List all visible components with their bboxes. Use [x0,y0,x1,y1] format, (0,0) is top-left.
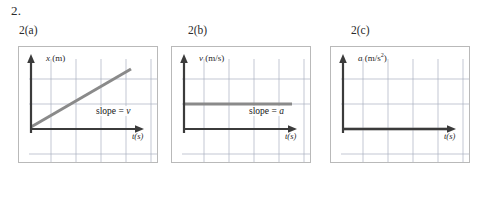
y-axis-arrowhead [339,54,347,63]
slope-prefix-2b: slope = [249,106,279,116]
vertical-gridlines [363,59,463,162]
horizontal-gridlines [182,79,310,154]
graph-svg-2c [331,47,470,163]
slope-symbol-2a: v [126,106,130,116]
y-axis-unit-tail-2c: ) [384,53,387,63]
y-axis-arrowhead [27,54,35,63]
y-axis-unit-2c: (m/s [363,53,381,63]
graph-svg-2b [172,47,311,163]
x-axis-label-2b: t(s) [285,131,296,141]
curve-position-time [31,69,131,127]
slope-prefix-2a: slope = [96,106,126,116]
slope-symbol-2b: a [279,106,284,116]
graph-panel-2b: v (m/s) t(s) slope = a [171,46,311,163]
horizontal-gridlines [341,79,469,154]
slope-annotation-2a: slope = v [95,106,131,116]
graph-panel-2c: a (m/s2) t(s) [330,46,470,163]
panel-caption-2c: 2(c) [351,24,370,36]
y-axis-label-2c: a (m/s2) [358,53,387,63]
plot-area-2a [19,47,157,162]
y-axis-arrowhead [180,54,188,63]
y-axis-label-2b: v (m/s) [199,53,224,63]
graph-panel-2a: x (m) t(s) slope = v [18,46,158,163]
slope-annotation-2b: slope = a [248,106,285,116]
y-axis-label-2a: x (m) [46,53,65,63]
y-axis-unit-2b: (m/s) [203,53,224,63]
plot-area-2c [331,47,469,162]
graph-svg-2a [19,47,158,163]
x-axis-label-2a: t(s) [132,131,143,141]
x-axis-label-2c: t(s) [444,131,455,141]
question-number: 2. [11,3,21,19]
plot-area-2b [172,47,310,162]
panel-caption-2a: 2(a) [19,24,38,36]
panel-caption-2b: 2(b) [188,24,207,36]
y-axis-unit-2a: (m) [50,53,65,63]
